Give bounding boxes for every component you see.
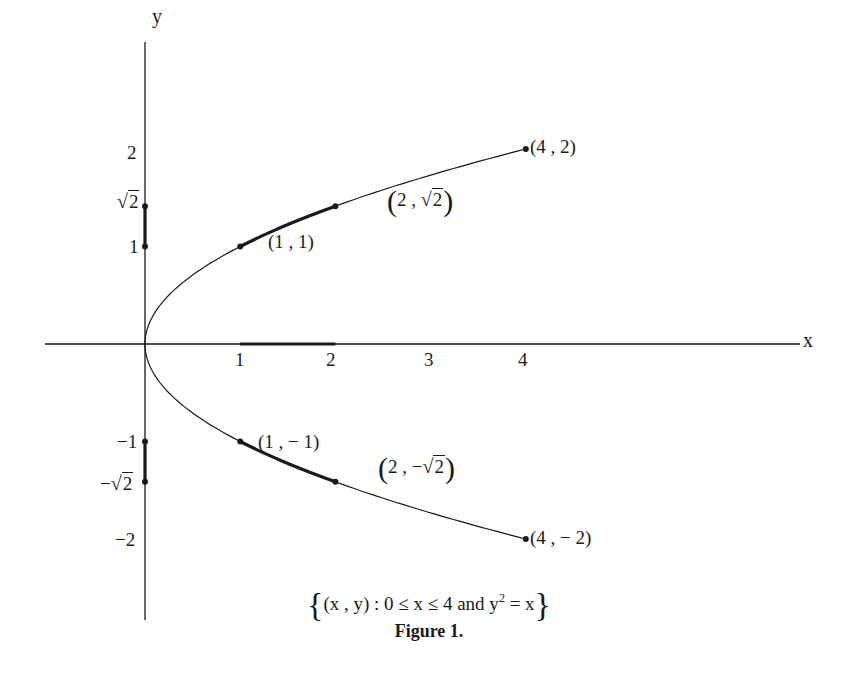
y-tick-sqrt2: √2 bbox=[117, 191, 139, 211]
annotation-1-1: (1 , 1) bbox=[268, 232, 314, 251]
sqrt-icon: √ bbox=[422, 455, 433, 477]
point-marker bbox=[142, 203, 148, 209]
axes bbox=[45, 42, 800, 620]
point-marker bbox=[142, 439, 148, 445]
sqrt-icon: √ bbox=[111, 472, 122, 494]
sqrt-icon: √ bbox=[421, 188, 432, 210]
annotation-1-minus-1: (1 , − 1) bbox=[258, 432, 319, 451]
x-axis-label: x bbox=[803, 330, 813, 350]
point-marker bbox=[523, 536, 529, 542]
point-marker bbox=[332, 479, 338, 485]
point-marker bbox=[332, 203, 338, 209]
point-marker bbox=[142, 244, 148, 250]
point-marker bbox=[142, 479, 148, 485]
annotation-4-minus-2: (4 , − 2) bbox=[530, 528, 591, 547]
y-tick-minus-2: −2 bbox=[115, 530, 135, 549]
y-tick-minus-1: −1 bbox=[117, 432, 137, 451]
x-tick-4: 4 bbox=[518, 350, 528, 369]
x-tick-2: 2 bbox=[326, 350, 336, 369]
y-axis-label: y bbox=[152, 6, 162, 26]
set-notation-caption: {(x , y) : 0 ≤ x ≤ 4 and y2 = x} bbox=[0, 586, 858, 624]
point-marker bbox=[523, 146, 529, 152]
annotation-4-2: (4 , 2) bbox=[530, 137, 576, 156]
plot-canvas bbox=[0, 0, 858, 679]
x-tick-3: 3 bbox=[424, 350, 434, 369]
point-marker bbox=[237, 439, 243, 445]
figure-title: Figure 1. bbox=[0, 621, 858, 642]
annotation-2-sqrt2: (2 , √2) bbox=[387, 186, 453, 216]
point-marker bbox=[237, 244, 243, 250]
x-tick-1: 1 bbox=[235, 350, 245, 369]
y-tick-2: 2 bbox=[127, 143, 137, 162]
y-tick-minus-sqrt2: −√2 bbox=[100, 473, 133, 493]
annotation-2-minus-sqrt2: (2 , −√2) bbox=[378, 453, 455, 483]
y-tick-1: 1 bbox=[129, 237, 139, 256]
sqrt-icon: √ bbox=[117, 190, 128, 212]
